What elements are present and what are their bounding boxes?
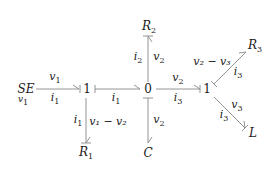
junction-0-center: 0 [144,83,152,95]
label-se-j1-flow: i1 [51,92,60,106]
label-se-j1-effort: v1 [49,71,60,85]
bond-se-j1-half-arrow [73,85,79,89]
label-j1r-r3-effort: v₂ − v₃ [193,56,230,67]
label-j0-j1r-flow: i3 [174,92,183,106]
label-j1-r1-effort: v₁ − v₂ [89,116,126,127]
label-j1r-l-effort: v3 [231,99,242,113]
bond-j1-j0-half-arrow [134,85,140,89]
bond-graph-canvas [0,0,272,172]
bond-j0-j1r-half-arrow [194,85,200,89]
bond-j0-c-half-arrow [148,137,152,143]
label-j1r-r3-flow: i3 [234,66,243,80]
element-r2: R2 [142,20,156,35]
bond-j0-r2-half-arrow [148,36,152,42]
source-sub-label: v1 [18,95,28,107]
junction-1-left: 1 [83,83,91,95]
label-j0-r2-effort: v2 [153,51,164,65]
element-c: C [143,147,152,159]
label-j1-r1-flow: i1 [74,114,83,128]
element-l: L [249,127,257,139]
bond-j1-r1-half-arrow [86,137,90,143]
junction-1-right: 1 [203,83,211,95]
label-j0-r2-flow: i2 [134,51,143,65]
label-j0-c-effort: v2 [153,114,164,128]
label-j0-j1r-effort: v2 [172,72,183,86]
element-r3: R3 [248,39,262,54]
element-r1: R1 [79,146,93,161]
label-j1r-l-flow: i3 [220,109,229,123]
label-j1-j0-flow: i1 [112,92,121,106]
